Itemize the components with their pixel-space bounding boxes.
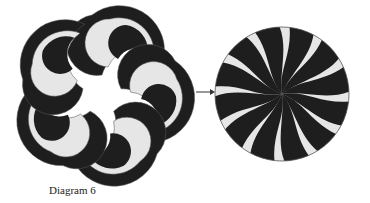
right-pinwheel-figure [197,9,368,180]
diagram-caption: Diagram 6 [49,184,96,196]
arrow-right-icon [196,89,215,95]
diagram-canvas [0,0,370,203]
left-swirl-figure [0,6,206,203]
